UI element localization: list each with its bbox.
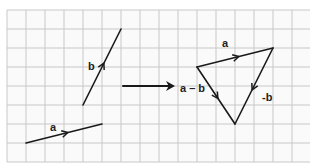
- vector-a-label: a: [50, 121, 57, 133]
- edge-a-label: a: [222, 37, 229, 49]
- vector-b-label: b: [88, 60, 95, 72]
- vector-diagram: a b a -b a – b: [0, 0, 310, 165]
- edge-a-minus-b-label: a – b: [180, 82, 205, 94]
- edge-neg-b-label: -b: [262, 91, 273, 103]
